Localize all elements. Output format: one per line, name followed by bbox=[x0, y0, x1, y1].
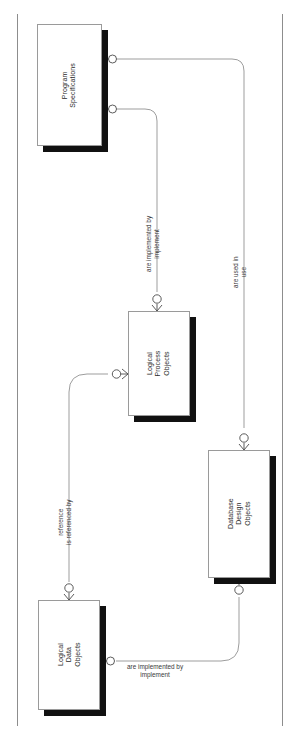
diagram-canvas: ProgramSpecifications LogicalProcessObje… bbox=[0, 0, 297, 740]
entity-label: DatabaseDesignObjects bbox=[208, 450, 270, 578]
entity-label: LogicalDataObjects bbox=[38, 600, 100, 710]
relationship-phrase-reverse: use bbox=[240, 256, 248, 288]
relationship-label-program-specs-to-database-design: are used in use bbox=[232, 256, 248, 288]
relationship-phrase-reverse: is referenced by bbox=[65, 500, 73, 545]
entity-label-text: LogicalDataObjects bbox=[56, 643, 81, 667]
relationship-label-logical-data-to-database-design: are implemented by implement bbox=[127, 663, 183, 679]
relationship-phrase-reverse: implement bbox=[127, 671, 183, 679]
link-logical-data-to-database-design bbox=[116, 597, 239, 661]
relationship-phrase-forward: are used in bbox=[232, 256, 240, 288]
entity-label: ProgramSpecifications bbox=[37, 24, 102, 146]
cardinality-logical-process-left bbox=[112, 369, 128, 379]
relationship-phrase-forward: reference bbox=[57, 500, 65, 545]
entity-label-text: LogicalProcessObjects bbox=[146, 351, 171, 377]
relationship-label-logical-data-to-logical-process: reference is referenced by bbox=[57, 500, 73, 545]
entity-label-text: ProgramSpecifications bbox=[61, 63, 78, 108]
relationship-phrase-forward: are implemented by bbox=[145, 216, 153, 272]
relationship-phrase-reverse: implement bbox=[153, 216, 161, 272]
entity-database-design-objects[interactable]: DatabaseDesignObjects bbox=[208, 450, 270, 578]
link-logical-data-to-logical-process bbox=[69, 374, 108, 582]
cardinality-logical-data-top bbox=[64, 584, 74, 600]
cardinality-logical-process-top bbox=[152, 295, 162, 311]
relationship-phrase-forward: are implemented by bbox=[127, 663, 183, 671]
cardinality-database-design-top bbox=[239, 434, 249, 450]
entity-logical-process-objects[interactable]: LogicalProcessObjects bbox=[128, 311, 190, 416]
entity-label-text: DatabaseDesignObjects bbox=[226, 499, 251, 530]
entity-logical-data-objects[interactable]: LogicalDataObjects bbox=[38, 600, 100, 710]
entity-program-specifications[interactable]: ProgramSpecifications bbox=[37, 24, 102, 146]
entity-label: LogicalProcessObjects bbox=[128, 311, 190, 416]
relationship-label-program-specs-to-logical-process: are implemented by implement bbox=[145, 216, 161, 272]
